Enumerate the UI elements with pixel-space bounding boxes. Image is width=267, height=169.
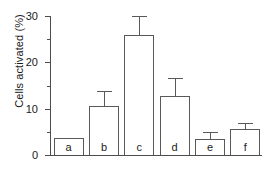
- bar-label-d: d: [161, 141, 189, 153]
- bar-label-f: f: [231, 141, 259, 153]
- bar-c: c: [124, 35, 154, 155]
- y-minor-tick-25: [47, 39, 50, 40]
- bar-b: b: [89, 106, 119, 155]
- error-bar-stem-d: [175, 78, 176, 96]
- plot-area: 0102030 abcdef: [50, 16, 262, 155]
- y-tick-0: 0: [45, 155, 50, 156]
- error-bar-cap-c: [132, 16, 147, 17]
- bar-label-e: e: [196, 141, 224, 153]
- y-tick-label-10: 10: [26, 103, 38, 115]
- bar-label-b: b: [90, 141, 118, 153]
- error-bar-cap-b: [97, 91, 112, 92]
- error-bar-stem-c: [139, 16, 140, 35]
- bar-label-c: c: [125, 141, 153, 153]
- y-minor-tick-5: [47, 132, 50, 133]
- bar-chart-figure: Cells activated (%) 0102030 abcdef: [0, 0, 267, 169]
- y-tick-30: 30: [45, 16, 50, 17]
- bar-a: a: [54, 138, 84, 155]
- error-bar-cap-d: [168, 78, 183, 79]
- y-minor-tick-15: [47, 86, 50, 87]
- y-tick-label-0: 0: [32, 149, 38, 161]
- y-tick-10: 10: [45, 109, 50, 110]
- y-tick-20: 20: [45, 62, 50, 63]
- x-axis-line: [50, 155, 262, 156]
- y-tick-label-20: 20: [26, 56, 38, 68]
- y-tick-label-30: 30: [26, 10, 38, 22]
- bar-label-a: a: [55, 141, 83, 153]
- y-axis-label: Cells activated (%): [13, 0, 25, 136]
- error-bar-stem-b: [104, 91, 105, 106]
- bar-f: f: [230, 129, 260, 155]
- bar-e: e: [195, 139, 225, 155]
- error-bar-cap-e: [203, 132, 218, 133]
- bar-d: d: [160, 96, 190, 155]
- y-axis-line: [50, 16, 51, 155]
- error-bar-stem-e: [210, 132, 211, 139]
- error-bar-cap-f: [238, 123, 253, 124]
